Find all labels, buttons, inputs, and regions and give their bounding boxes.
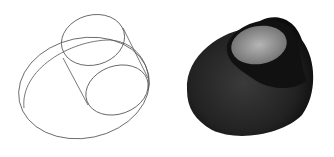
cylinder-edge-right	[123, 28, 148, 78]
shaded-panel	[167, 0, 334, 157]
bottom-ellipse	[79, 57, 156, 124]
wireframe-panel	[0, 0, 167, 157]
top-ellipse	[56, 8, 131, 73]
